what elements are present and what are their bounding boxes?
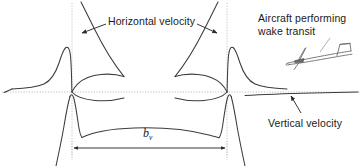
- aircraft-note: Aircraft performing wake transit: [258, 12, 358, 37]
- aircraft-note-line-2: wake transit: [258, 25, 315, 37]
- span-subscript: v: [149, 133, 152, 142]
- aircraft-note-line-1: Aircraft performing: [258, 12, 346, 24]
- vertical-velocity-label: Vertical velocity: [268, 118, 342, 130]
- wake-vortex-velocity-diagram: Horizontal velocity Aircraft performing …: [0, 0, 363, 166]
- horizontal-velocity-label: Horizontal velocity: [108, 16, 195, 28]
- span-dimension-label: bv: [143, 126, 152, 142]
